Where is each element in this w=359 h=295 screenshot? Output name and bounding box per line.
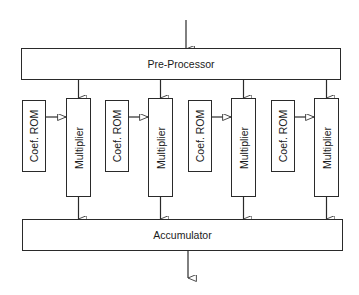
multiplier-block: Multiplier xyxy=(66,98,91,197)
multiplier-label: Multiplier xyxy=(238,126,250,168)
coef-rom-label: Coef. ROM xyxy=(277,110,289,163)
multiplier-label: Multiplier xyxy=(73,126,85,168)
multiplier-block: Multiplier xyxy=(231,98,256,197)
multiplier-label: Multiplier xyxy=(321,126,333,168)
multiplier-label: Multiplier xyxy=(155,126,167,168)
coef-rom-block: Coef. ROM xyxy=(22,100,46,172)
coef-rom-label: Coef. ROM xyxy=(111,110,123,163)
accumulator-block: Accumulator xyxy=(22,219,343,251)
accumulator-label: Accumulator xyxy=(23,229,342,241)
coef-rom-block: Coef. ROM xyxy=(105,100,129,172)
pre-processor-label: Pre-Processor xyxy=(22,58,340,70)
coef-rom-block: Coef. ROM xyxy=(271,100,295,172)
multiplier-block: Multiplier xyxy=(314,98,339,197)
coef-rom-label: Coef. ROM xyxy=(28,110,40,163)
coef-rom-label: Coef. ROM xyxy=(194,110,206,163)
fir-filter-block-diagram: Pre-Processor Coef. ROMMultiplierCoef. R… xyxy=(0,0,359,295)
multiplier-block: Multiplier xyxy=(148,98,173,197)
coef-rom-block: Coef. ROM xyxy=(188,100,212,172)
pre-processor-block: Pre-Processor xyxy=(21,48,341,80)
